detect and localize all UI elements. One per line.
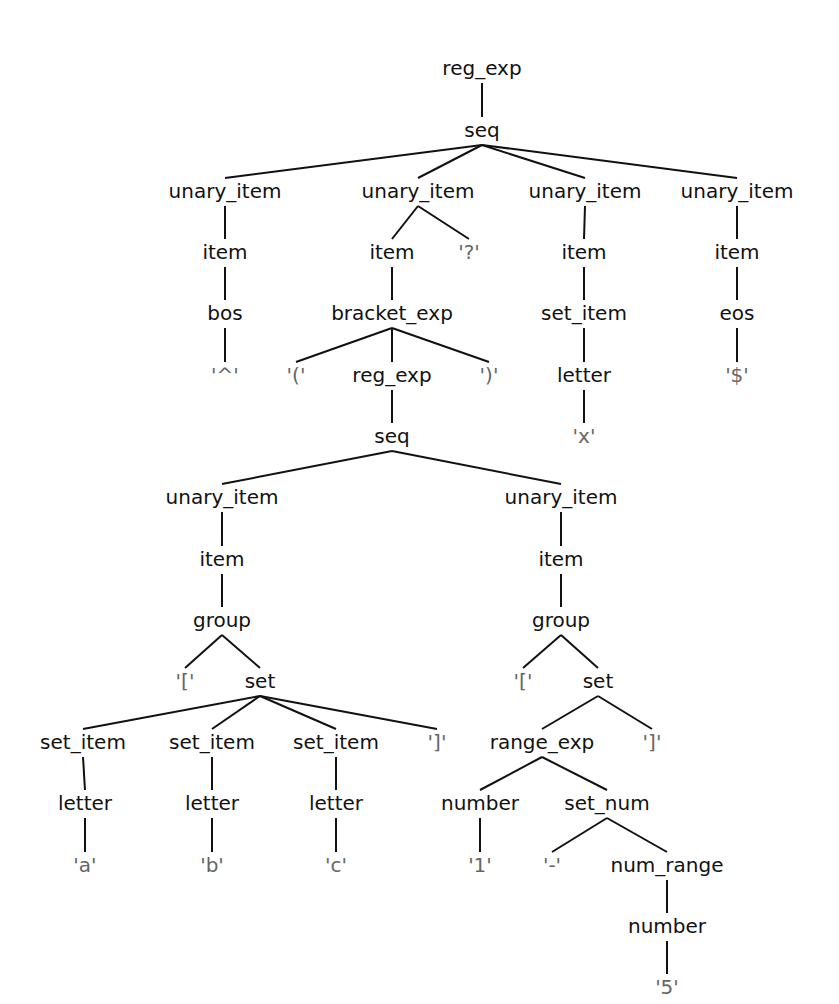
terminal-leaf: '5' bbox=[655, 975, 679, 999]
tree-edge bbox=[225, 145, 482, 178]
tree-edge bbox=[482, 145, 585, 178]
terminal-leaf: '1' bbox=[468, 853, 492, 877]
tree-edge bbox=[392, 451, 561, 484]
tree-nodes: reg_expsequnary_itemunary_itemunary_item… bbox=[40, 56, 793, 999]
nonterminal-node: letter bbox=[557, 363, 612, 387]
nonterminal-node: item bbox=[714, 240, 759, 264]
nonterminal-node: letter bbox=[58, 791, 113, 815]
terminal-leaf: '-' bbox=[543, 853, 561, 877]
tree-edge bbox=[418, 206, 469, 239]
tree-edge bbox=[222, 635, 260, 668]
terminal-leaf: '[' bbox=[176, 669, 195, 693]
tree-edge bbox=[584, 206, 585, 239]
parse-tree-diagram: reg_expsequnary_itemunary_itemunary_item… bbox=[0, 0, 839, 1004]
nonterminal-node: item bbox=[561, 240, 606, 264]
nonterminal-node: item bbox=[538, 547, 583, 571]
nonterminal-node: num_range bbox=[611, 853, 724, 877]
tree-edge bbox=[392, 328, 489, 362]
terminal-leaf: 'a' bbox=[73, 853, 96, 877]
nonterminal-node: item bbox=[199, 547, 244, 571]
tree-edge bbox=[260, 696, 437, 729]
nonterminal-node: unary_item bbox=[169, 179, 282, 203]
tree-edge bbox=[480, 757, 542, 790]
tree-edge bbox=[552, 818, 607, 852]
nonterminal-node: unary_item bbox=[529, 179, 642, 203]
nonterminal-node: set bbox=[245, 669, 276, 693]
tree-edge bbox=[83, 696, 260, 729]
nonterminal-node: seq bbox=[464, 118, 499, 142]
terminal-leaf: ']' bbox=[643, 730, 662, 754]
terminal-leaf: 'b' bbox=[200, 853, 224, 877]
tree-edge bbox=[523, 635, 561, 668]
nonterminal-node: unary_item bbox=[505, 485, 618, 509]
terminal-leaf: 'x' bbox=[573, 424, 596, 448]
tree-edge bbox=[83, 757, 85, 790]
nonterminal-node: eos bbox=[720, 301, 755, 325]
tree-edge bbox=[185, 635, 222, 668]
terminal-leaf: '$' bbox=[725, 363, 749, 387]
nonterminal-node: reg_exp bbox=[442, 56, 521, 80]
nonterminal-node: unary_item bbox=[166, 485, 279, 509]
nonterminal-node: bracket_exp bbox=[331, 301, 453, 325]
nonterminal-node: range_exp bbox=[490, 730, 595, 754]
nonterminal-node: group bbox=[193, 608, 251, 632]
terminal-leaf: 'c' bbox=[325, 853, 347, 877]
nonterminal-node: reg_exp bbox=[352, 363, 431, 387]
tree-edge bbox=[392, 206, 418, 239]
terminal-leaf: ']' bbox=[428, 730, 447, 754]
tree-edge bbox=[222, 451, 392, 484]
nonterminal-node: set_item bbox=[40, 730, 126, 754]
tree-edge bbox=[598, 696, 652, 729]
terminal-leaf: '(' bbox=[287, 363, 306, 387]
nonterminal-node: letter bbox=[309, 791, 364, 815]
nonterminal-node: unary_item bbox=[362, 179, 475, 203]
nonterminal-node: letter bbox=[185, 791, 240, 815]
nonterminal-node: set bbox=[583, 669, 614, 693]
nonterminal-node: group bbox=[532, 608, 590, 632]
tree-edge bbox=[542, 696, 598, 729]
tree-edge bbox=[260, 696, 336, 729]
tree-edge bbox=[482, 145, 737, 178]
terminal-leaf: '?' bbox=[458, 240, 480, 264]
nonterminal-node: set_item bbox=[169, 730, 255, 754]
terminal-leaf: '^' bbox=[211, 363, 239, 387]
nonterminal-node: number bbox=[628, 914, 707, 938]
tree-edge bbox=[561, 635, 598, 668]
nonterminal-node: item bbox=[202, 240, 247, 264]
nonterminal-node: bos bbox=[207, 301, 242, 325]
tree-edge bbox=[542, 757, 607, 790]
nonterminal-node: set_num bbox=[564, 791, 649, 815]
terminal-leaf: ')' bbox=[480, 363, 499, 387]
nonterminal-node: item bbox=[369, 240, 414, 264]
nonterminal-node: set_item bbox=[293, 730, 379, 754]
terminal-leaf: '[' bbox=[514, 669, 533, 693]
nonterminal-node: unary_item bbox=[681, 179, 794, 203]
nonterminal-node: set_item bbox=[541, 301, 627, 325]
tree-edges bbox=[83, 83, 737, 974]
tree-edge bbox=[296, 328, 392, 362]
tree-edge bbox=[607, 818, 667, 852]
nonterminal-node: number bbox=[441, 791, 520, 815]
nonterminal-node: seq bbox=[374, 424, 409, 448]
